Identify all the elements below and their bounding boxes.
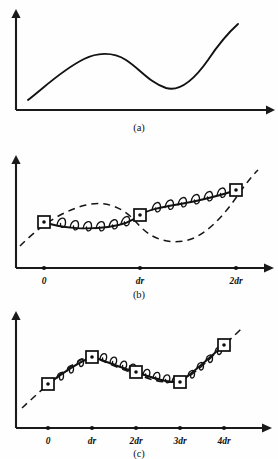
tick-label-dr: dr bbox=[88, 436, 97, 446]
tick-label-0: 0 bbox=[46, 436, 51, 446]
tick-dot bbox=[90, 426, 94, 430]
node-marker[interactable] bbox=[130, 366, 142, 378]
figure-root: (a) bbox=[0, 0, 278, 459]
coil-segment-2 bbox=[152, 188, 226, 212]
node-marker[interactable] bbox=[218, 339, 230, 351]
y-axis-arrowhead bbox=[11, 311, 20, 320]
tick-dot bbox=[178, 426, 182, 430]
node-markers bbox=[38, 184, 242, 228]
panel-b-caption: (b) bbox=[133, 289, 146, 300]
x-axis-arrowhead bbox=[264, 263, 274, 272]
tick-label-dr: dr bbox=[136, 276, 145, 286]
y-axis-arrowhead bbox=[11, 9, 20, 18]
tick-label-2dr: 2dr bbox=[128, 436, 143, 446]
tick-dot bbox=[234, 266, 238, 270]
node-marker[interactable] bbox=[86, 351, 98, 363]
x-axis-arrowhead bbox=[266, 105, 275, 114]
tick-label-2dr: 2dr bbox=[228, 276, 243, 286]
y-axis-arrowhead bbox=[11, 155, 20, 164]
x-axis-tick-labels: 0 dr 2dr 3dr 4dr bbox=[46, 436, 231, 446]
node-marker[interactable] bbox=[134, 209, 146, 221]
x-axis-tick-labels: 0 dr 2dr bbox=[42, 276, 243, 286]
node-marker[interactable] bbox=[38, 216, 50, 228]
tick-dot bbox=[138, 266, 142, 270]
panel-a-caption: (a) bbox=[133, 122, 145, 134]
node-marker[interactable] bbox=[174, 376, 186, 388]
node-marker[interactable] bbox=[42, 378, 54, 390]
tick-dot bbox=[46, 426, 50, 430]
tick-label-3dr: 3dr bbox=[172, 436, 187, 446]
node-marker[interactable] bbox=[230, 184, 242, 196]
panel-a-caption-wrap: (a) bbox=[0, 118, 278, 142]
tick-dot bbox=[222, 426, 226, 430]
panel-c: 0 dr 2dr 3dr 4dr (c) bbox=[0, 300, 278, 459]
tick-dot bbox=[134, 426, 138, 430]
panel-b: 0 dr 2dr (b) bbox=[0, 148, 278, 300]
panel-c-caption: (c) bbox=[133, 448, 145, 459]
x-axis-arrowhead bbox=[262, 423, 272, 432]
exact-solution-curve bbox=[28, 24, 238, 100]
reference-dashed-curve bbox=[20, 170, 258, 246]
panel-a-axes bbox=[11, 9, 275, 115]
tick-label-0: 0 bbox=[42, 276, 47, 286]
tick-dot bbox=[42, 266, 46, 270]
tick-label-4dr: 4dr bbox=[216, 436, 231, 446]
